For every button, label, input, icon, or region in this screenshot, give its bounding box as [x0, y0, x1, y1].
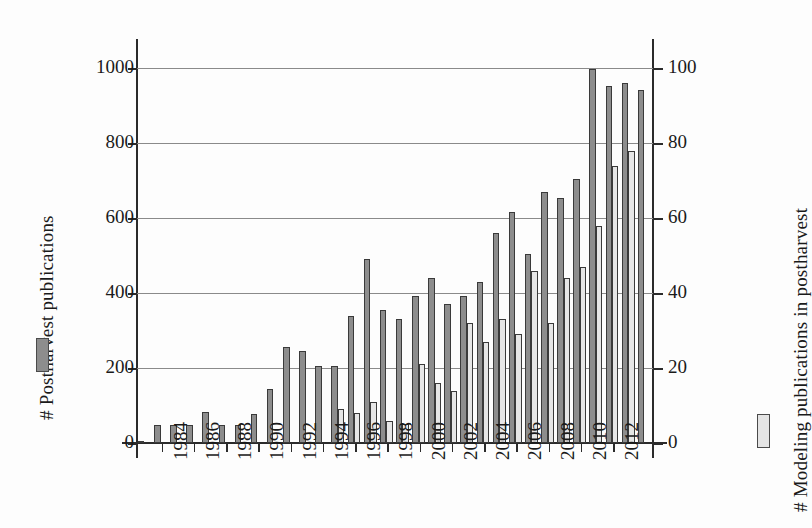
right-axis-tick — [653, 68, 663, 70]
x-axis-tick — [549, 443, 551, 452]
x-axis-tick-label: 2010 — [589, 422, 611, 460]
right-axis-tick-label: 0 — [668, 431, 678, 453]
x-axis-tick — [258, 443, 260, 452]
bar-modeling-2013 — [628, 151, 634, 444]
x-axis-tick-label: 2012 — [621, 422, 643, 460]
bar-modeling-2012 — [612, 166, 618, 444]
bar-modeling-2006 — [515, 334, 521, 443]
x-axis-tick-label: 2000 — [428, 422, 450, 460]
gridline — [137, 68, 653, 69]
x-axis-tick-label: 2008 — [557, 422, 579, 460]
right-axis-tick — [653, 143, 663, 145]
left-axis-tick-label: 800 — [106, 131, 135, 153]
x-axis-tick-label: 2006 — [524, 422, 546, 460]
bar-modeling-2009 — [564, 278, 570, 443]
bar-modeling-2010 — [580, 267, 586, 443]
right-axis-tick — [653, 443, 663, 445]
right-axis-tick — [653, 293, 663, 295]
x-axis-tick-label: 1992 — [299, 422, 321, 460]
bar-modeling-2004 — [483, 342, 489, 443]
x-axis-tick — [355, 443, 357, 452]
right-axis-tick-label: 40 — [668, 281, 687, 303]
bar-modeling-2000 — [419, 364, 425, 443]
bar-modeling-2007 — [531, 271, 537, 444]
x-axis-tick — [420, 443, 422, 452]
x-axis-tick-label: 2002 — [460, 422, 482, 460]
bar-modeling-2008 — [548, 323, 554, 443]
right-axis-tick — [653, 218, 663, 220]
x-axis-tick-label: 1986 — [202, 422, 224, 460]
x-axis-tick — [452, 443, 454, 452]
left-axis-tick-label: 1000 — [96, 56, 134, 78]
bar-postharvest-1983 — [138, 441, 144, 443]
plot-area: 0020020400406006080080100010019841986198… — [137, 68, 653, 443]
bar-modeling-1996 — [354, 413, 360, 443]
left-axis-tick-label: 0 — [125, 431, 135, 453]
right-axis-tick-label: 80 — [668, 131, 687, 153]
right-axis-tick-label: 100 — [668, 56, 697, 78]
bar-modeling-1998 — [386, 421, 392, 444]
modeling-publications-swatch — [757, 414, 770, 448]
x-axis-tick — [484, 443, 486, 452]
right-axis-tick — [653, 368, 663, 370]
left-axis-tick-label: 600 — [106, 206, 135, 228]
right-axis-tick-label: 20 — [668, 356, 687, 378]
x-axis-tick-label: 1984 — [170, 422, 192, 460]
x-axis-tick-label: 1998 — [395, 422, 417, 460]
x-axis-tick — [387, 443, 389, 452]
left-axis-title: # Postharvest publications — [36, 215, 58, 420]
gridline — [137, 143, 653, 144]
x-axis-tick — [323, 443, 325, 452]
x-axis-tick — [226, 443, 228, 452]
x-axis-tick-label: 1996 — [363, 422, 385, 460]
x-axis-tick-label: 2004 — [492, 422, 514, 460]
x-axis-tick — [194, 443, 196, 452]
x-axis-tick-label: 1988 — [234, 422, 256, 460]
left-axis-tick-label: 200 — [106, 356, 135, 378]
x-axis-tick — [581, 443, 583, 452]
x-axis-tick — [291, 443, 293, 452]
bar-postharvest-1984 — [154, 425, 160, 443]
left-axis-tick-label: 400 — [106, 281, 135, 303]
right-axis-tick-label: 60 — [668, 206, 687, 228]
right-axis-title: # Modeling publications in postharvest — [790, 208, 812, 512]
bar-postharvest-2014 — [638, 90, 644, 443]
x-axis-tick — [162, 443, 164, 452]
x-axis-tick — [516, 443, 518, 452]
x-axis-tick — [613, 443, 615, 452]
x-axis-tick-label: 1990 — [266, 422, 288, 460]
bar-modeling-2011 — [596, 226, 602, 444]
bar-modeling-2002 — [451, 391, 457, 444]
x-axis-tick-label: 1994 — [331, 422, 353, 460]
postharvest-publications-swatch — [36, 338, 49, 372]
